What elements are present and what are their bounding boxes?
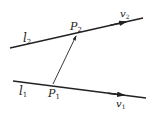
line-l1 <box>13 81 146 98</box>
label-l1: l1 <box>19 84 27 99</box>
label-v2: v2 <box>120 8 130 20</box>
label-v1: v1 <box>116 98 125 110</box>
diagram-canvas: l2 P2 v2 l1 P1 v1 <box>0 0 158 116</box>
label-l2: l2 <box>23 31 31 46</box>
vector-p1-p2 <box>53 36 76 84</box>
skew-lines-diagram: l2 P2 v2 l1 P1 v1 <box>0 0 158 116</box>
vector-v1-arrow <box>108 93 124 95</box>
label-p2: P2 <box>69 20 82 34</box>
vector-v2-arrow <box>110 22 126 26</box>
label-p1: P1 <box>47 87 60 101</box>
